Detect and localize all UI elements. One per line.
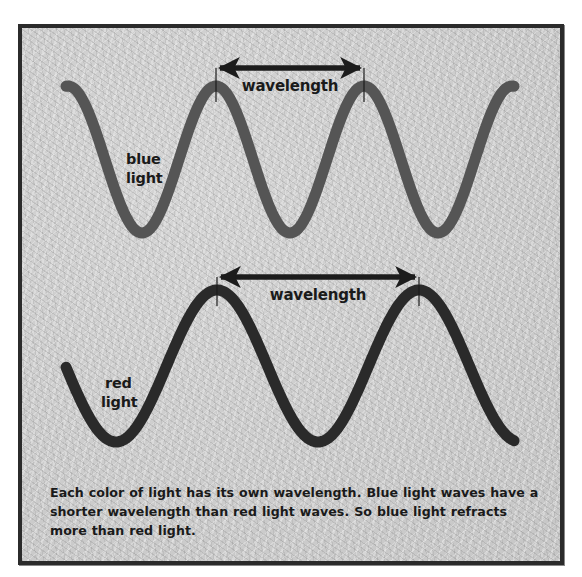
red-light-label-line1: red <box>101 374 138 393</box>
red-light-wave <box>66 290 514 442</box>
caption-text: Each color of light has its own waveleng… <box>50 483 540 540</box>
blue-light-label-line2: light <box>126 169 163 188</box>
red-light-label: red light <box>101 374 138 412</box>
blue-wavelength-label: wavelength <box>242 79 339 94</box>
red-wavelength-label: wavelength <box>270 288 367 303</box>
red-light-label-line2: light <box>101 393 138 412</box>
blue-light-label: blue light <box>126 150 163 188</box>
blue-light-label-line1: blue <box>126 150 163 169</box>
